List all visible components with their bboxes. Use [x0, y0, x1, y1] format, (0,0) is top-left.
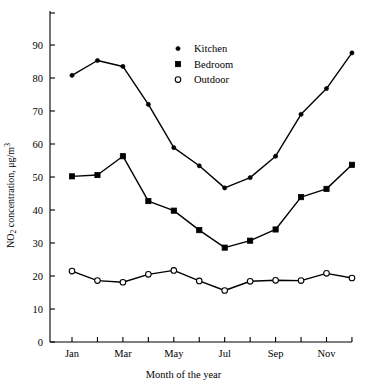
- data-point-outdoor: [247, 278, 253, 284]
- data-point-bedroom: [146, 198, 151, 203]
- data-point-bedroom: [197, 228, 202, 233]
- x-axis-tick-label: Nov: [317, 348, 336, 359]
- data-point-kitchen: [70, 73, 74, 77]
- axis-layer: 0102030405060708090JanMarMayJulSepNov: [33, 11, 353, 359]
- data-point-outdoor: [146, 272, 152, 278]
- data-point-kitchen: [223, 186, 227, 190]
- no2-concentration-line-chart: NO2 concentration, μg/m3 Month of the ye…: [0, 0, 367, 391]
- data-point-outdoor: [171, 268, 177, 274]
- data-point-kitchen: [274, 154, 278, 158]
- data-point-kitchen: [324, 86, 328, 90]
- data-point-outdoor: [196, 278, 202, 284]
- data-point-bedroom: [273, 227, 278, 232]
- data-point-bedroom: [349, 162, 354, 167]
- data-point-kitchen: [197, 164, 201, 168]
- y-axis-tick-label: 0: [38, 337, 43, 348]
- y-axis-tick-label: 50: [33, 172, 44, 183]
- x-axis-tick-label: May: [164, 348, 184, 359]
- data-point-kitchen: [299, 112, 303, 116]
- legend-marker-outdoor: [175, 77, 181, 83]
- data-point-outdoor: [298, 278, 304, 284]
- legend-label-bedroom: Bedroom: [194, 59, 233, 70]
- data-point-outdoor: [69, 268, 75, 274]
- legend-layer: KitchenBedroomOutdoor: [175, 43, 233, 85]
- plot-area: 0102030405060708090JanMarMayJulSepNov Ki…: [0, 0, 367, 391]
- data-point-outdoor: [222, 288, 228, 294]
- data-point-outdoor: [120, 279, 126, 285]
- x-axis-tick-label: Mar: [114, 348, 132, 359]
- data-point-kitchen: [248, 176, 252, 180]
- y-axis-tick-label: 10: [33, 304, 44, 315]
- data-point-outdoor: [273, 277, 279, 283]
- legend-label-outdoor: Outdoor: [194, 74, 230, 85]
- y-axis-tick-label: 20: [33, 271, 44, 282]
- y-axis-tick-label: 90: [33, 40, 44, 51]
- data-point-bedroom: [222, 245, 227, 250]
- legend-marker-bedroom: [175, 62, 180, 67]
- data-point-bedroom: [324, 186, 329, 191]
- series-layer: [69, 51, 355, 294]
- data-point-bedroom: [171, 208, 176, 213]
- data-point-bedroom: [248, 238, 253, 243]
- data-point-bedroom: [95, 172, 100, 177]
- data-point-kitchen: [146, 102, 150, 106]
- data-point-bedroom: [120, 154, 125, 159]
- data-point-outdoor: [349, 275, 355, 281]
- y-axis-tick-label: 70: [33, 106, 44, 117]
- data-point-kitchen: [95, 58, 99, 62]
- data-point-bedroom: [298, 195, 303, 200]
- data-point-kitchen: [350, 51, 354, 55]
- data-point-bedroom: [69, 174, 74, 179]
- series-line-bedroom: [72, 156, 352, 247]
- data-point-kitchen: [121, 64, 125, 68]
- data-point-outdoor: [95, 278, 101, 284]
- y-axis-tick-label: 60: [33, 139, 44, 150]
- legend-label-kitchen: Kitchen: [194, 43, 228, 54]
- y-axis-tick-label: 30: [33, 238, 44, 249]
- x-axis-tick-label: Jul: [219, 348, 231, 359]
- data-point-kitchen: [172, 146, 176, 150]
- data-point-outdoor: [324, 271, 330, 277]
- y-axis-tick-label: 80: [33, 73, 44, 84]
- legend-marker-kitchen: [176, 47, 180, 51]
- x-axis-tick-label: Jan: [65, 348, 80, 359]
- x-axis-tick-label: Sep: [268, 348, 284, 359]
- series-line-outdoor: [72, 270, 352, 290]
- y-axis-tick-label: 40: [33, 205, 44, 216]
